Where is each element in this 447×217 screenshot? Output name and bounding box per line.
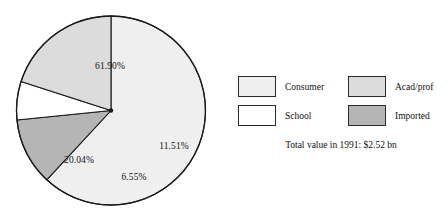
- pie-center-dot: [109, 108, 113, 112]
- legend-footer-total: Total value in 1991: $2.52 bn: [238, 140, 444, 150]
- legend-swatch-icon: [238, 76, 276, 97]
- legend-item-label: Imported: [395, 111, 430, 121]
- legend-swatch-icon: [238, 105, 276, 126]
- legend-item-imported[interactable]: Imported: [348, 105, 444, 126]
- legend-item-consumer[interactable]: Consumer: [238, 76, 334, 97]
- chart-legend: ConsumerAcad/profSchoolImported Total va…: [238, 76, 444, 150]
- pie-chart-svg: [0, 0, 224, 217]
- pie-slice-label-consumer: 61.90%: [95, 61, 125, 71]
- legend-grid: ConsumerAcad/profSchoolImported: [238, 76, 444, 126]
- pie-slice-label-imported: 11.51%: [159, 141, 189, 151]
- pie-slice-label-acad-prof: 20.04%: [64, 155, 94, 165]
- legend-swatch-icon: [348, 76, 386, 97]
- pie-chart-plot-area: 61.90%11.51%6.55%20.04%: [0, 0, 224, 217]
- legend-swatch-icon: [348, 105, 386, 126]
- legend-item-acad-prof[interactable]: Acad/prof: [348, 76, 444, 97]
- legend-item-school[interactable]: School: [238, 105, 334, 126]
- pie-chart-figure: 61.90%11.51%6.55%20.04% ConsumerAcad/pro…: [0, 0, 447, 217]
- legend-item-label: Consumer: [285, 82, 324, 92]
- legend-item-label: Acad/prof: [395, 82, 434, 92]
- pie-slice-label-school: 6.55%: [121, 172, 146, 182]
- legend-item-label: School: [285, 111, 311, 121]
